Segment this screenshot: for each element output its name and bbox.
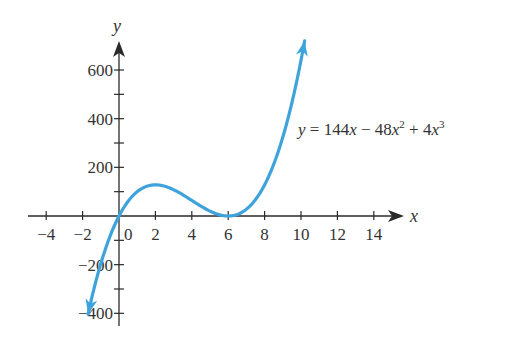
x-tick-label: 6 bbox=[224, 225, 233, 244]
x-tick-label: −2 bbox=[74, 225, 92, 244]
axes bbox=[28, 41, 404, 326]
eq-exp3: 3 bbox=[439, 118, 445, 130]
eq-y: y bbox=[296, 120, 306, 139]
x-tick-label: 2 bbox=[151, 225, 160, 244]
x-tick-label: 12 bbox=[329, 225, 346, 244]
y-tick-label: −200 bbox=[78, 256, 113, 275]
y-tick-label: 400 bbox=[88, 110, 114, 129]
x-tick-label: 10 bbox=[293, 225, 310, 244]
eq-term2: − 48 bbox=[357, 120, 392, 139]
equation-label: y = 144x − 48x2 + 4x3 bbox=[296, 118, 445, 139]
x-axis-label: x bbox=[409, 206, 418, 226]
y-axis-ticks: 600400200−200−400 bbox=[78, 61, 124, 323]
eq-term1: = 144 bbox=[306, 120, 350, 139]
origin-label: 0 bbox=[124, 225, 133, 244]
x-tick-label: 14 bbox=[365, 225, 383, 244]
x-tick-label: 4 bbox=[188, 225, 197, 244]
function-curve bbox=[88, 41, 305, 314]
x-tick-label: −4 bbox=[37, 225, 56, 244]
y-tick-label: 200 bbox=[88, 158, 114, 177]
x-tick-label: 8 bbox=[260, 225, 269, 244]
y-axis-label: y bbox=[111, 16, 121, 36]
eq-term3: + 4 bbox=[405, 120, 432, 139]
y-tick-label: 600 bbox=[88, 61, 114, 80]
cubic-function-chart: −4−22468101214 600400200−200−400 x y 0 y… bbox=[0, 0, 506, 340]
y-tick-label: −400 bbox=[78, 304, 113, 323]
